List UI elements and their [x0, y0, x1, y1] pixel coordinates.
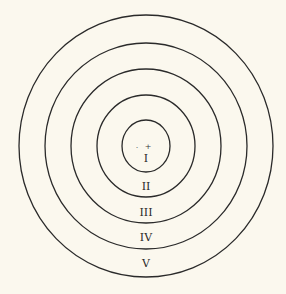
zone-label-2: II	[142, 180, 151, 193]
zone-label-3: III	[139, 206, 152, 219]
center-dot-marker: ·	[136, 143, 139, 152]
zone-label-4: IV	[140, 231, 153, 244]
center-plus-marker: +	[145, 142, 152, 151]
concentric-zones-diagram: + · IIIIIIIVV	[0, 0, 286, 294]
zone-label-1: I	[144, 152, 148, 165]
zone-label-5: V	[141, 257, 151, 270]
